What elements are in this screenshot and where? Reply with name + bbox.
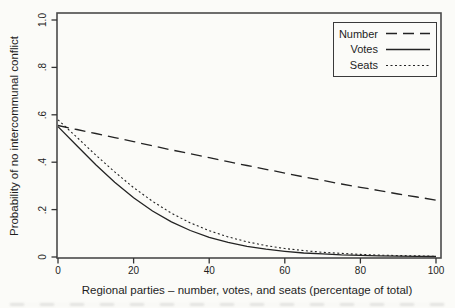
x-axis-title: Regional parties – number, votes, and se… (82, 284, 413, 296)
x-tick-label: 20 (128, 266, 139, 276)
dotted-line-sample (385, 60, 431, 71)
x-tick-label: 40 (204, 266, 215, 276)
y-tick-label: .2 (38, 205, 48, 213)
series-line-votes (58, 127, 436, 257)
y-tick-label: .8 (38, 63, 48, 71)
long-dash-line-sample (385, 28, 431, 39)
legend-item-number: Number (338, 26, 431, 41)
scan-artifact (10, 303, 445, 306)
series-line-number (58, 126, 436, 201)
legend-label-votes: Votes (338, 43, 385, 55)
x-tick-label: 0 (55, 266, 61, 276)
legend-label-number: Number (338, 28, 385, 40)
legend: Number Votes Seats (333, 22, 437, 77)
y-tick-label: 0 (38, 254, 48, 260)
x-tick-label: 100 (428, 266, 445, 276)
solid-line-sample (385, 44, 431, 55)
legend-item-votes: Votes (338, 42, 431, 57)
y-tick-label: 1.0 (38, 13, 48, 27)
x-tick-label: 60 (279, 266, 290, 276)
series-line-seats (58, 120, 436, 256)
x-tick-label: 80 (355, 266, 366, 276)
figure-panel: 0204060801000.2.4.6.81.0 Probability of … (0, 0, 455, 308)
y-tick-label: .6 (38, 111, 48, 119)
y-axis-title: Probability of no intercommunal conflict (8, 36, 20, 236)
legend-label-seats: Seats (338, 59, 385, 71)
legend-item-seats: Seats (338, 58, 431, 73)
y-tick-label: .4 (38, 158, 48, 166)
